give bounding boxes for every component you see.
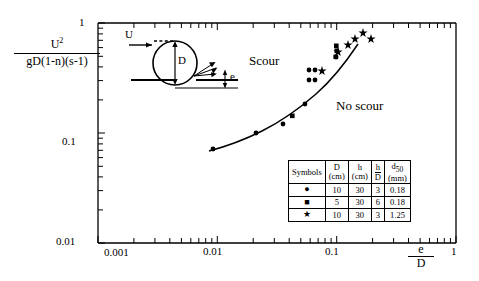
- legend-header-row: Symbols D(cm) h(cm) hD d50(mm): [289, 161, 411, 184]
- y-tick-label-0.01: 0.01: [56, 235, 75, 247]
- marker-star: [366, 34, 375, 43]
- y-axis-label-denominator: gD(1-n)(s-1): [14, 53, 100, 69]
- inset-label-U: U: [125, 28, 133, 40]
- legend-cell-hD: 6: [371, 196, 384, 208]
- legend-cell-hD: 3: [371, 209, 384, 221]
- inset-label-e: e: [230, 70, 235, 82]
- marker-circle: [211, 147, 216, 152]
- marker-star: [350, 34, 359, 43]
- marker-circle: [303, 102, 308, 107]
- y-tick-label-1: 1: [79, 16, 85, 28]
- inset-label-D: D: [178, 54, 186, 66]
- legend-cell-d50: 1.25: [385, 209, 411, 221]
- legend-cell-h: 30: [348, 184, 371, 196]
- legend-header-h-over-D: hD: [371, 161, 384, 184]
- scour-threshold-figure: U2 gD(1-n)(s-1) e D 1 0.1 0.01 0.001 0.0…: [0, 0, 479, 281]
- marker-circle: [307, 78, 312, 83]
- marker-square: [290, 114, 295, 119]
- y-tick-label-0.1: 0.1: [62, 135, 76, 147]
- legend-cell-h: 30: [348, 209, 371, 221]
- y-axis-label: U2 gD(1-n)(s-1): [14, 36, 100, 69]
- marker-circle: [307, 68, 312, 73]
- x-axis-label-numerator: e: [408, 243, 434, 256]
- legend-row-circle: ● 10 30 3 0.18: [289, 184, 411, 196]
- data-markers: [211, 28, 376, 151]
- x-tick-label-0.01: 0.01: [203, 245, 222, 257]
- legend-symbol-square: ■: [289, 196, 326, 208]
- legend-cell-h: 30: [348, 196, 371, 208]
- x-axis-ticks: [98, 236, 456, 243]
- marker-circle: [313, 68, 318, 73]
- legend-cell-D: 5: [325, 196, 348, 208]
- annotation-no-scour: No scour: [336, 98, 383, 114]
- x-tick-label-1: 1: [451, 245, 457, 257]
- legend-cell-D: 10: [325, 184, 348, 196]
- x-axis-label: e D: [408, 243, 434, 270]
- legend-symbol-star: ★: [289, 209, 326, 221]
- x-axis-label-denominator: D: [408, 256, 434, 270]
- legend-header-D: D(cm): [325, 161, 348, 184]
- legend-cell-D: 10: [325, 209, 348, 221]
- marker-star: [317, 66, 326, 75]
- x-tick-label-0.001: 0.001: [104, 246, 129, 258]
- legend-cell-d50: 0.18: [385, 196, 411, 208]
- y-axis-label-numerator: U2: [14, 36, 100, 53]
- legend-cell-d50: 0.18: [385, 184, 411, 196]
- marker-circle: [281, 122, 286, 127]
- legend-row-star: ★ 10 30 3 1.25: [289, 209, 411, 221]
- legend-header-d50: d50(mm): [385, 161, 411, 184]
- legend-row-square: ■ 5 30 6 0.18: [289, 196, 411, 208]
- legend-header-h: h(cm): [348, 161, 371, 184]
- marker-circle: [313, 78, 318, 83]
- marker-circle: [254, 131, 259, 136]
- marker-star: [358, 28, 367, 37]
- marker-star: [343, 40, 352, 49]
- legend-cell-hD: 3: [371, 184, 384, 196]
- legend-header-symbols: Symbols: [289, 161, 326, 184]
- x-tick-label-0.1: 0.1: [325, 245, 339, 257]
- legend-table: Symbols D(cm) h(cm) hD d50(mm) ● 10 30 3…: [288, 160, 411, 222]
- legend-symbol-circle: ●: [289, 184, 326, 196]
- annotation-scour: Scour: [249, 53, 279, 69]
